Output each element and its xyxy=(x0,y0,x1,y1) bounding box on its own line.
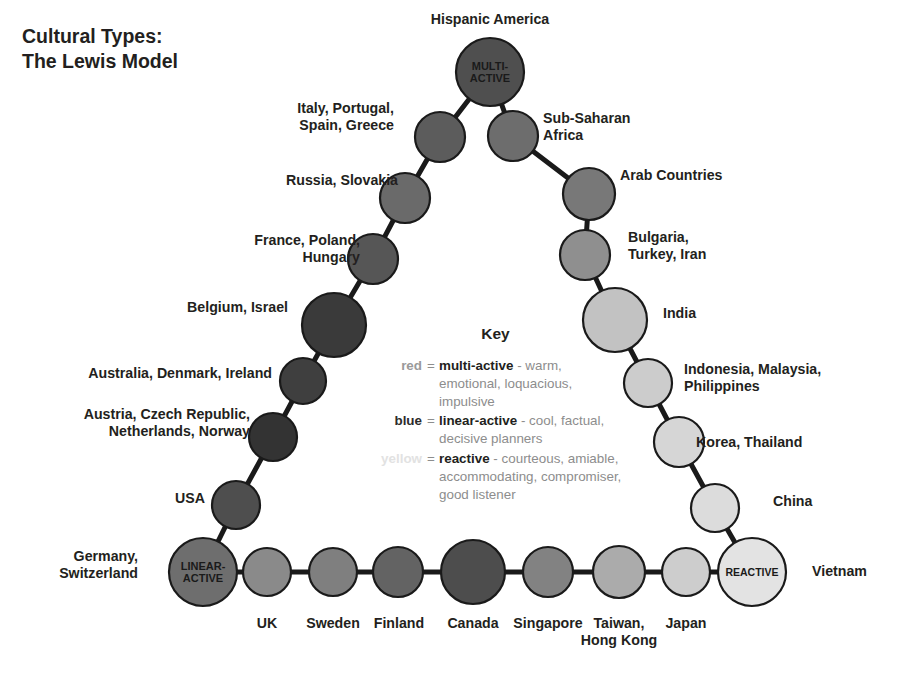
key-definition-linear-active: linear-active - cool, factual, decisive … xyxy=(439,412,623,448)
label-china: China xyxy=(773,493,883,510)
key-color-word-red: red xyxy=(368,357,427,375)
node-left-0[interactable] xyxy=(415,112,465,162)
node-caption-multi-active: MULTI- xyxy=(472,60,509,72)
key-row-reactive: yellow=reactive - courteous, amiable, ac… xyxy=(368,450,623,503)
label-austria: Austria, Czech Republic,Netherlands, Nor… xyxy=(20,406,250,441)
node-left-4[interactable] xyxy=(280,358,326,404)
key-color-word-blue: blue xyxy=(368,412,427,430)
label-belgium: Belgium, Israel xyxy=(118,299,288,316)
node-bottom-4[interactable] xyxy=(523,547,573,597)
key-equals-sign: = xyxy=(427,412,439,430)
key-equals-sign: = xyxy=(427,357,439,375)
node-right-1[interactable] xyxy=(563,168,615,220)
node-left-3[interactable] xyxy=(302,293,366,357)
key-definition-multi-active: multi-active - warm, emotional, loquacio… xyxy=(439,357,623,410)
node-right-0[interactable] xyxy=(488,111,538,161)
node-right-4[interactable] xyxy=(624,359,672,407)
label-bulgaria: Bulgaria,Turkey, Iran xyxy=(628,229,778,264)
node-caption-multi-active: ACTIVE xyxy=(470,72,510,84)
node-bottom-5[interactable] xyxy=(593,546,645,598)
lewis-model-diagram: Cultural Types: The Lewis Model MULTI-AC… xyxy=(0,0,900,678)
label-italy: Italy, Portugal,Spain, Greece xyxy=(234,100,394,135)
label-vietnam: Vietnam xyxy=(812,563,900,580)
label-subsaharan: Sub-SaharanAfrica xyxy=(543,110,713,145)
node-bottom-6[interactable] xyxy=(662,548,710,596)
node-bottom-1[interactable] xyxy=(309,548,357,596)
label-france: France, Poland,Hungary xyxy=(150,232,360,267)
key-legend: Key red=multi-active - warm, emotional, … xyxy=(368,325,623,506)
label-germany: Germany,Switzerland xyxy=(10,548,138,583)
key-equals-sign: = xyxy=(427,450,439,468)
node-left-6[interactable] xyxy=(212,481,260,529)
label-india: India xyxy=(663,305,773,322)
node-right-2[interactable] xyxy=(560,230,610,280)
label-arab: Arab Countries xyxy=(620,167,810,184)
node-caption-reactive: REACTIVE xyxy=(725,566,778,578)
node-bottom-3[interactable] xyxy=(441,540,505,604)
node-bottom-0[interactable] xyxy=(243,548,291,596)
key-row-linear-active: blue=linear-active - cool, factual, deci… xyxy=(368,412,623,448)
label-indonesia: Indonesia, Malaysia,Philippines xyxy=(684,361,900,396)
label-australia: Australia, Denmark, Ireland xyxy=(30,365,272,382)
node-caption-linear-active: LINEAR- xyxy=(181,560,226,572)
key-heading: Key xyxy=(368,325,623,343)
label-russia: Russia, Slovakia xyxy=(170,172,398,189)
label-usa: USA xyxy=(80,490,205,507)
key-row-multi-active: red=multi-active - warm, emotional, loqu… xyxy=(368,357,623,410)
node-bottom-2[interactable] xyxy=(373,547,423,597)
node-right-6[interactable] xyxy=(691,484,739,532)
label-hispanic-america: Hispanic America xyxy=(390,11,590,28)
key-color-word-yellow: yellow xyxy=(368,450,427,468)
key-rows: red=multi-active - warm, emotional, loqu… xyxy=(368,357,623,504)
key-definition-reactive: reactive - courteous, amiable, accommoda… xyxy=(439,450,623,503)
node-caption-linear-active: ACTIVE xyxy=(183,572,223,584)
label-japan: Japan xyxy=(650,615,722,632)
label-korea: Korea, Thailand xyxy=(696,434,876,451)
node-left-5[interactable] xyxy=(249,413,297,461)
